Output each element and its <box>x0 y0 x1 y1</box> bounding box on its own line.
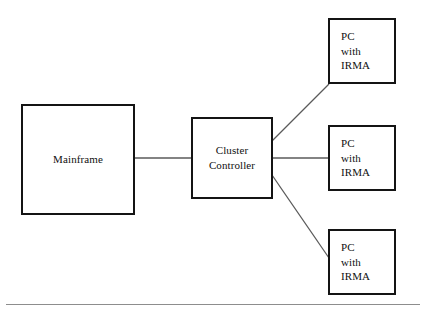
node-mainframe-label: Mainframe <box>53 152 103 167</box>
connector-cluster-to-pc-3 <box>272 175 329 258</box>
node-pc-irma-2-label: PC with IRMA <box>330 136 370 180</box>
connector-cluster-to-pc-1 <box>272 84 329 141</box>
diagram-canvas: Mainframe Cluster Controller PC with IRM… <box>0 0 426 318</box>
node-pc-irma-2[interactable]: PC with IRMA <box>328 125 396 191</box>
node-mainframe[interactable]: Mainframe <box>21 104 135 215</box>
node-pc-irma-3[interactable]: PC with IRMA <box>328 229 396 295</box>
node-cluster-controller[interactable]: Cluster Controller <box>191 117 273 199</box>
footer-divider <box>6 304 420 305</box>
node-pc-irma-1-label: PC with IRMA <box>330 29 370 73</box>
node-pc-irma-1[interactable]: PC with IRMA <box>328 18 396 84</box>
node-cluster-controller-label: Cluster Controller <box>209 143 255 172</box>
node-pc-irma-3-label: PC with IRMA <box>330 240 370 284</box>
